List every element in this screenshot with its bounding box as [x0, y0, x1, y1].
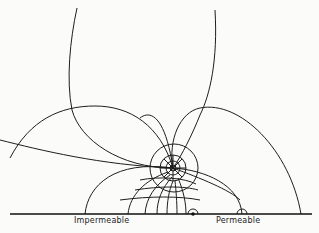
right-lower-arc [173, 168, 240, 200]
flow-net-svg [0, 0, 319, 233]
mid-left-arc [0, 140, 173, 168]
lower-streamline [167, 181, 173, 214]
flow-net-diagram: Impermeable Permeable [0, 0, 319, 233]
right-outer-arc [172, 107, 301, 214]
left-tall-streamline [69, 8, 173, 168]
impermeable-label: Impermeable [74, 216, 129, 225]
lower-streamline [157, 177, 172, 214]
lower-streamline [178, 178, 186, 214]
lower-equipotential [140, 178, 196, 184]
permeable-label: Permeable [216, 216, 260, 225]
right-mid-arc [173, 168, 242, 214]
